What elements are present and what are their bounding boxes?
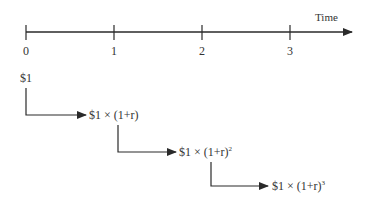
value-period-1: $1 × (1+r)	[89, 109, 139, 121]
time-axis	[26, 25, 352, 40]
axis-label-time: Time	[315, 12, 338, 23]
diagram-canvas	[0, 0, 365, 203]
value-period-3: $1 × (1+r)3	[272, 180, 325, 192]
step-connector-3	[211, 162, 268, 186]
step-connector-1	[26, 88, 86, 115]
value-exponent: 2	[229, 145, 233, 153]
tick-label-2: 2	[199, 45, 205, 57]
tick-label-0: 0	[23, 45, 29, 57]
tick-label-1: 1	[111, 45, 117, 57]
value-base: $1 × (1+r)	[272, 179, 322, 193]
value-base: $1 × (1+r)	[89, 108, 139, 122]
step-connector-2	[118, 125, 176, 152]
value-period-0: $1	[20, 72, 32, 84]
value-period-2: $1 × (1+r)2	[179, 146, 232, 158]
value-exponent: 3	[322, 179, 326, 187]
value-base: $1 × (1+r)	[179, 145, 229, 159]
tick-label-3: 3	[287, 45, 293, 57]
